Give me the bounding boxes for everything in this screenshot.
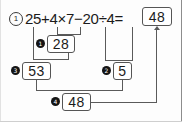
page-edge-right — [181, 0, 182, 122]
bracket-step3-right — [68, 53, 69, 60]
step-result-box-4[interactable]: 48 — [62, 93, 91, 111]
page-edge-bottom — [0, 121, 182, 122]
expression-text: 25+4×7−20÷4= — [25, 10, 123, 27]
answer-link-horizontal — [91, 102, 157, 103]
page-edge-left — [0, 0, 1, 122]
step-marker-3: 3 — [11, 66, 20, 75]
step-marker-4: 4 — [51, 97, 60, 106]
worksheet-page: 1 25+4×7−20÷4= 48 1 28 2 5 3 53 4 48 — [0, 0, 182, 122]
bracket-step2-left — [105, 27, 106, 61]
problem-number-badge: 1 — [9, 12, 23, 26]
step-marker-2: 2 — [102, 66, 111, 75]
bracket-step2-bottom — [105, 60, 133, 61]
bracket-step2-right — [132, 27, 133, 61]
answer-box[interactable]: 48 — [142, 7, 172, 26]
step-result-box-1[interactable]: 28 — [47, 35, 75, 53]
bracket-step3-left — [33, 27, 34, 60]
expression-line: 1 25+4×7−20÷4= — [9, 10, 123, 27]
step-result-box-2[interactable]: 5 — [113, 62, 132, 80]
step-result-box-3[interactable]: 53 — [22, 62, 51, 80]
arrow-head-icon — [154, 26, 160, 30]
step-marker-1: 1 — [36, 39, 45, 48]
bracket-step4-right — [122, 80, 123, 91]
bracket-step4-bottom — [36, 90, 123, 91]
bracket-step1-right — [80, 27, 81, 35]
answer-link-vertical — [156, 30, 157, 102]
bracket-step3-bottom — [33, 59, 69, 60]
